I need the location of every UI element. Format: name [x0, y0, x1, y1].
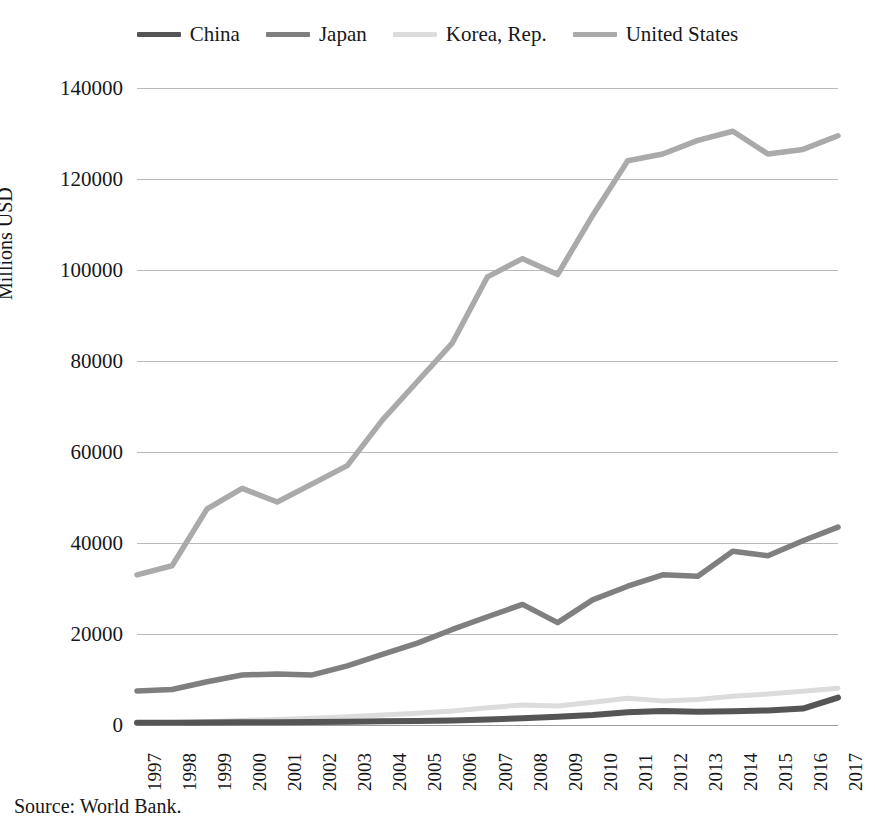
legend-swatch-china — [137, 32, 181, 37]
x-tick-label-2002: 2002 — [319, 753, 341, 791]
series-line-united-states — [137, 131, 838, 575]
legend-label-korea: Korea, Rep. — [446, 24, 547, 45]
legend-item-china[interactable]: China — [137, 24, 240, 45]
x-tick-label-2007: 2007 — [495, 753, 517, 791]
x-tick-label-2004: 2004 — [389, 753, 411, 791]
y-tick-label-20000: 20000 — [71, 622, 124, 647]
x-tick-label-2009: 2009 — [565, 753, 587, 791]
legend-item-united_states[interactable]: United States — [573, 24, 739, 45]
chart-figure: ChinaJapanKorea, Rep.United States 02000… — [0, 0, 875, 821]
legend-swatch-united_states — [573, 32, 617, 37]
x-tick-label-2017: 2017 — [845, 753, 867, 791]
x-tick-label-1998: 1998 — [179, 753, 201, 791]
legend-swatch-korea — [393, 32, 437, 37]
y-tick-label-60000: 60000 — [71, 440, 124, 465]
x-tick-label-2016: 2016 — [810, 753, 832, 791]
legend-label-china: China — [190, 24, 240, 45]
y-tick-label-40000: 40000 — [71, 531, 124, 556]
y-axis-tick-labels: 020000400006000080000100000120000140000 — [0, 88, 123, 725]
x-tick-label-2015: 2015 — [775, 753, 797, 791]
series-line-japan — [137, 527, 838, 691]
x-tick-label-2003: 2003 — [354, 753, 376, 791]
x-tick-label-2000: 2000 — [249, 753, 271, 791]
x-tick-label-2012: 2012 — [670, 753, 692, 791]
y-axis-title: Millions USD — [0, 187, 17, 300]
x-tick-label-2013: 2013 — [705, 753, 727, 791]
x-tick-label-2010: 2010 — [600, 753, 622, 791]
legend-item-korea[interactable]: Korea, Rep. — [393, 24, 547, 45]
x-tick-label-2008: 2008 — [530, 753, 552, 791]
x-tick-label-2014: 2014 — [740, 753, 762, 791]
x-tick-label-2006: 2006 — [459, 753, 481, 791]
y-tick-label-100000: 100000 — [60, 258, 123, 283]
x-axis-tick-labels: 1997199819992000200120022003200420052006… — [137, 729, 838, 799]
plot-area — [137, 88, 838, 725]
legend-swatch-japan — [266, 32, 310, 37]
top-caption-fragment — [140, 0, 700, 4]
y-tick-label-0: 0 — [113, 713, 124, 738]
legend-label-united_states: United States — [626, 24, 739, 45]
y-tick-label-120000: 120000 — [60, 167, 123, 192]
x-tick-label-1997: 1997 — [144, 753, 166, 791]
y-tick-label-140000: 140000 — [60, 76, 123, 101]
y-tick-label-80000: 80000 — [71, 349, 124, 374]
x-tick-label-2011: 2011 — [635, 754, 657, 791]
x-tick-label-2001: 2001 — [284, 753, 306, 791]
chart-legend: ChinaJapanKorea, Rep.United States — [0, 24, 875, 45]
legend-label-japan: Japan — [319, 24, 367, 45]
source-note: Source: World Bank. — [14, 795, 181, 818]
x-tick-label-1999: 1999 — [214, 753, 236, 791]
legend-item-japan[interactable]: Japan — [266, 24, 367, 45]
series-layer — [137, 88, 838, 725]
x-tick-label-2005: 2005 — [424, 753, 446, 791]
